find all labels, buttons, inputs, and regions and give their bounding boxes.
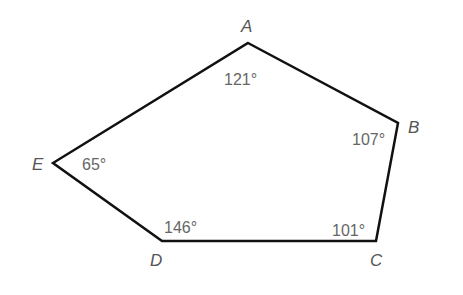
angle-label-d: 146° (164, 219, 197, 236)
vertex-label-c: C (370, 251, 383, 270)
pentagon-diagram: A B C D E 121° 107° 101° 146° 65° (0, 0, 463, 295)
angle-label-c: 101° (332, 222, 365, 239)
vertex-label-b: B (408, 118, 419, 137)
angle-label-e: 65° (82, 156, 106, 173)
vertex-label-e: E (32, 155, 44, 174)
vertex-label-d: D (150, 251, 162, 270)
angle-label-a: 121° (224, 71, 257, 88)
vertex-label-a: A (240, 17, 252, 36)
angle-label-b: 107° (352, 131, 385, 148)
